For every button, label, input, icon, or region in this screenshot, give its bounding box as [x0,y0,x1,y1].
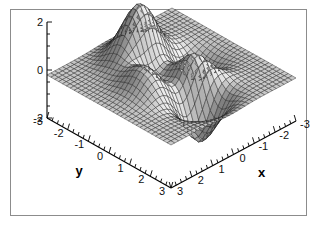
y-axis-minor-tick [104,147,105,151]
y-axis-tick-label: 1 [118,162,124,174]
y-axis-major-tick [109,147,111,153]
y-axis-tick-label: 3 [159,185,165,197]
x-axis-minor-tick [222,157,223,161]
y-axis-tick-label: 2 [138,173,144,185]
y-axis-minor-tick [94,141,95,145]
y-axis-minor-tick [166,182,167,186]
y-axis-major-tick [130,159,132,165]
y-axis-tick-label: -2 [54,127,64,139]
y-axis-minor-tick [73,129,74,133]
x-axis-minor-tick [186,176,187,180]
y-axis-tick-label: 0 [97,150,103,162]
x-axis-major-tick [232,149,234,155]
x-axis-minor-tick [180,179,181,183]
y-axis-minor-tick [57,120,58,124]
x-axis-major-tick [253,137,255,143]
y-axis-minor-tick [78,132,79,136]
y-axis-minor-tick [135,164,136,168]
z-axis-tick-label: 2 [37,16,43,28]
x-axis-minor-tick [201,168,202,172]
x-axis-minor-tick [243,145,244,149]
y-axis-minor-tick [119,155,120,159]
y-axis-tick-label: -3 [33,115,43,127]
x-axis-major-tick [190,171,192,177]
y-axis-major-tick [68,124,70,130]
y-axis-tick-label: -1 [74,138,84,150]
surface-mesh [47,4,296,145]
surface-plot-canvas: 20-2-3-2-10123y3210-1-2-3x [0,0,320,236]
x-axis-title: x [258,165,266,180]
y-axis-title: y [75,163,83,178]
y-axis-minor-tick [145,170,146,174]
x-axis-minor-tick [285,123,286,127]
x-axis-tick-label: 3 [177,185,183,197]
x-axis-minor-tick [269,131,270,135]
x-axis-tick-label: 1 [219,163,225,175]
x-axis-major-tick [273,126,275,132]
x-axis-minor-tick [248,143,249,147]
y-axis-major-tick [150,170,152,176]
y-axis-minor-tick [125,158,126,162]
x-axis-tick-label: -2 [279,129,289,141]
x-axis-major-tick [211,160,213,166]
figure-root: 20-2-3-2-10123y3210-1-2-3x [0,0,320,236]
x-axis-tick-label: -3 [300,118,310,130]
x-axis-minor-tick [227,154,228,158]
x-axis-tick-label: 2 [198,174,204,186]
y-axis-minor-tick [156,176,157,180]
y-axis-minor-tick [114,152,115,156]
y-axis-minor-tick [161,179,162,183]
x-axis-minor-tick [290,120,291,124]
z-axis-tick-label: 0 [37,64,43,76]
y-axis-minor-tick [52,117,53,121]
y-axis-minor-tick [140,167,141,171]
x-axis-tick-label: -1 [258,140,268,152]
x-axis-tick-label: 0 [239,152,245,164]
x-axis-minor-tick [206,165,207,169]
x-axis-minor-tick [264,134,265,138]
y-axis-minor-tick [99,144,100,148]
x-axis-major-tick [294,115,296,121]
y-axis-major-tick [88,135,90,141]
